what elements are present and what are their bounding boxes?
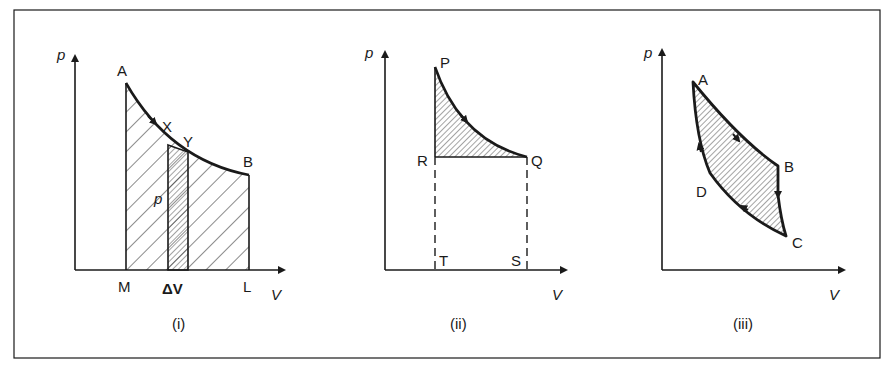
point-label-a: A xyxy=(117,62,127,79)
strip-height-label: p xyxy=(153,190,162,207)
panel-caption: (i) xyxy=(172,315,185,332)
strip-element xyxy=(168,145,188,270)
point-label-p: P xyxy=(440,54,450,71)
panel-iii: p V A B D C (iii) xyxy=(643,44,844,332)
panel-caption: (iii) xyxy=(733,315,753,332)
work-area-hatch xyxy=(435,67,527,157)
point-label-b: B xyxy=(784,158,794,175)
point-label-y: Y xyxy=(183,133,193,150)
point-label-a: A xyxy=(698,71,708,88)
point-label-c: C xyxy=(792,234,803,251)
point-label-s: S xyxy=(511,252,521,269)
x-axis-label: V xyxy=(271,286,283,303)
point-label-b: B xyxy=(243,153,253,170)
point-label-t: T xyxy=(439,252,448,269)
point-label-l: L xyxy=(243,278,251,295)
x-axis-label: V xyxy=(829,286,841,303)
y-axis-label: p xyxy=(364,44,373,61)
point-label-r: R xyxy=(417,152,428,169)
point-label-q: Q xyxy=(531,152,543,169)
panel-ii: p V P R Q T S (ii) xyxy=(364,44,566,332)
point-label-m: M xyxy=(118,278,131,295)
panel-i: p V A X Y B p M ΔV L (i) xyxy=(56,46,284,332)
point-label-x: X xyxy=(162,118,172,135)
delta-v-label: ΔV xyxy=(162,280,183,297)
y-axis-label: p xyxy=(56,46,65,63)
pv-diagrams-figure: p V A X Y B p M ΔV L (i) p V P R Q T S (… xyxy=(0,0,895,370)
panel-caption: (ii) xyxy=(450,315,467,332)
cycle-abcd xyxy=(693,82,786,236)
y-axis-label: p xyxy=(643,44,652,61)
point-label-d: D xyxy=(696,183,707,200)
x-axis-label: V xyxy=(552,286,564,303)
